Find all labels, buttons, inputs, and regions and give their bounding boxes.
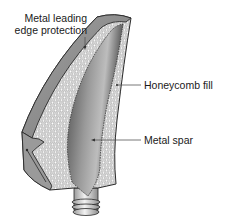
label-leading-edge-line1: Metal leading (14, 12, 87, 24)
label-leading-edge-line2: edge protection (14, 24, 87, 36)
label-spar: Metal spar (144, 134, 193, 146)
label-leading-edge: Metal leading edge protection (14, 12, 87, 36)
rotor-blade-diagram: Metal leading edge protection Honeycomb … (0, 0, 226, 222)
slot-end-dot (26, 149, 28, 151)
label-honeycomb: Honeycomb fill (144, 79, 213, 91)
